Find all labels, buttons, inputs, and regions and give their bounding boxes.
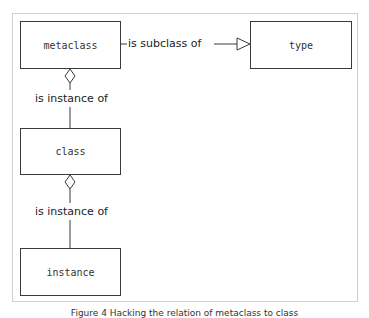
node-type: type	[250, 21, 352, 69]
node-class: class	[20, 128, 121, 175]
node-label: type	[289, 40, 313, 51]
node-label: class	[55, 146, 85, 157]
figure-caption: Figure 4 Hacking the relation of metacla…	[0, 308, 369, 318]
edge-label-instance-of-instance: is instance of	[35, 206, 108, 218]
hollow-triangle-arrow-icon	[237, 38, 250, 50]
node-label: instance	[46, 267, 94, 278]
node-label: metaclass	[43, 40, 97, 51]
node-instance: instance	[20, 248, 121, 296]
hollow-diamond-icon	[65, 175, 75, 189]
node-metaclass: metaclass	[20, 21, 121, 69]
hollow-diamond-icon	[65, 69, 75, 83]
edge-label-instance-of-class: is instance of	[35, 93, 108, 105]
edge-label-subclass: is subclass of	[128, 38, 201, 50]
